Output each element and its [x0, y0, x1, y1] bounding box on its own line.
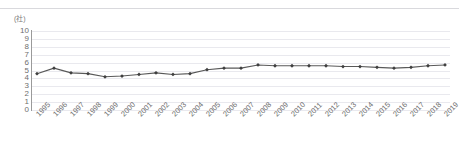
data-point-marker	[341, 65, 345, 69]
data-point-marker	[154, 71, 158, 75]
plot-area	[32, 31, 450, 110]
data-point-marker	[307, 64, 311, 68]
data-point-marker	[290, 64, 294, 68]
data-point-marker	[137, 73, 141, 77]
data-point-marker	[188, 72, 192, 76]
line-series	[32, 31, 450, 110]
data-point-marker	[443, 63, 447, 67]
data-point-marker	[52, 66, 56, 70]
data-point-marker	[103, 75, 107, 79]
data-point-marker	[86, 72, 90, 76]
y-axis-tick-labels: 109876543210	[14, 26, 29, 116]
data-point-marker	[222, 66, 226, 70]
data-point-marker	[392, 66, 396, 70]
data-point-marker	[35, 72, 39, 76]
data-point-marker	[358, 65, 362, 69]
page-top-rule	[0, 8, 459, 9]
data-point-marker	[375, 65, 379, 69]
x-axis-tick-labels: 1995199619971998199920002001200220032004…	[32, 112, 454, 162]
data-point-marker	[426, 64, 430, 68]
data-point-marker	[171, 73, 175, 77]
data-point-marker	[120, 74, 124, 78]
data-point-marker	[69, 71, 73, 75]
data-point-marker	[324, 64, 328, 68]
data-point-marker	[273, 64, 277, 68]
data-point-marker	[205, 68, 209, 72]
data-point-marker	[256, 63, 260, 67]
y-axis-tick-label: 0	[14, 106, 29, 114]
data-point-marker	[409, 65, 413, 69]
chart-page: (社) 109876543210 19951996199719981999200…	[0, 0, 459, 164]
data-point-marker	[239, 66, 243, 70]
y-axis-unit-label: (社)	[14, 15, 26, 23]
